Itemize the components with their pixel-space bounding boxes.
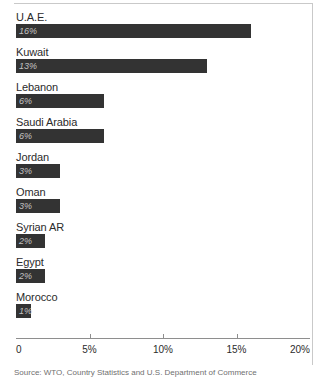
bar-group: Egypt2% <box>16 256 310 283</box>
bar-track: 3% <box>16 199 310 213</box>
bar-category-label: Saudi Arabia <box>16 116 310 129</box>
bar-group: U.A.E.16% <box>16 11 310 38</box>
bar-value-label: 6% <box>19 95 32 107</box>
bar-group: Syrian AR2% <box>16 221 310 248</box>
bar-value-label: 3% <box>19 165 32 177</box>
bar-value-label: 13% <box>19 60 37 72</box>
bar-track: 16% <box>16 24 310 38</box>
bar-category-label: Oman <box>16 186 310 199</box>
bar-category-label: Kuwait <box>16 46 310 59</box>
bar-category-label: Syrian AR <box>16 221 310 234</box>
bar-track: 2% <box>16 234 310 248</box>
bar-category-label: Morocco <box>16 291 310 304</box>
bar-group: Saudi Arabia6% <box>16 116 310 143</box>
bar-value-label: 16% <box>19 25 37 37</box>
bar-chart-figure: U.A.E.16%Kuwait13%Lebanon6%Saudi Arabia6… <box>0 0 325 381</box>
bar <box>16 24 251 38</box>
bar <box>16 59 207 73</box>
bar-value-label: 6% <box>19 130 32 142</box>
bar-track: 6% <box>16 94 310 108</box>
bar-group: Jordan3% <box>16 151 310 178</box>
x-axis-tick <box>237 334 238 338</box>
bar-track: 3% <box>16 164 310 178</box>
x-axis-tick-label: 15% <box>226 344 246 356</box>
bar-track: 2% <box>16 269 310 283</box>
bar-category-label: U.A.E. <box>16 11 310 24</box>
bar-category-label: Egypt <box>16 256 310 269</box>
bar-group: Morocco1% <box>16 291 310 318</box>
x-axis-tick <box>90 334 91 338</box>
bar-category-label: Jordan <box>16 151 310 164</box>
bar-track: 13% <box>16 59 310 73</box>
bar-value-label: 1% <box>19 305 32 317</box>
source-note: Source: WTO, Country Statistics and U.S.… <box>14 367 257 378</box>
x-axis-tick-label: 0 <box>16 344 22 356</box>
x-axis-tick-label: 10% <box>153 344 173 356</box>
bar-category-label: Lebanon <box>16 81 310 94</box>
x-axis-tick-labels: 05%10%15%20% <box>0 344 325 358</box>
bar-value-label: 3% <box>19 200 32 212</box>
bar-value-label: 2% <box>19 235 32 247</box>
x-axis-tick-label: 5% <box>82 344 96 356</box>
x-axis-tick <box>163 334 164 338</box>
bar-value-label: 2% <box>19 270 32 282</box>
bar-track: 6% <box>16 129 310 143</box>
x-axis-tick-label: 20% <box>290 344 310 356</box>
x-axis-line <box>16 338 310 339</box>
bar-track: 1% <box>16 304 310 318</box>
plot-area: U.A.E.16%Kuwait13%Lebanon6%Saudi Arabia6… <box>0 0 325 381</box>
bar-group: Oman3% <box>16 186 310 213</box>
bar-group: Kuwait13% <box>16 46 310 73</box>
bar-group: Lebanon6% <box>16 81 310 108</box>
